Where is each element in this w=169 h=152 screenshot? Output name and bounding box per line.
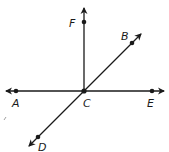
point-A — [14, 89, 19, 94]
label-B: B — [121, 30, 129, 43]
label-F: F — [69, 17, 76, 30]
geometry-diagram: A B C D E F — [0, 0, 169, 152]
point-D — [36, 135, 41, 140]
label-E: E — [147, 97, 154, 110]
label-A: A — [11, 97, 20, 110]
point-C — [81, 88, 86, 93]
point-E — [150, 89, 155, 94]
label-C: C — [83, 97, 91, 110]
label-D: D — [38, 141, 46, 152]
point-F — [82, 20, 87, 25]
point-B — [130, 41, 135, 46]
stray-mark — [4, 117, 6, 120]
